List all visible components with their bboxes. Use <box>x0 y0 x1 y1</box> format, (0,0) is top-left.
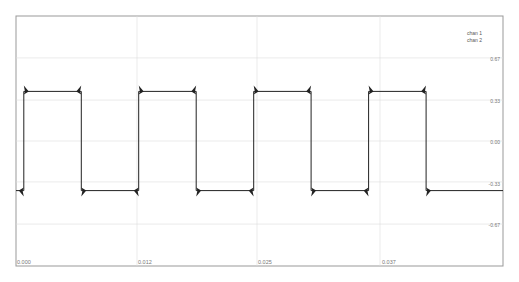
y-tick-0.33: 0.33 <box>478 98 500 104</box>
y-tick-0.67: 0.67 <box>478 56 500 62</box>
x-tick-0.025: 0.025 <box>258 259 272 265</box>
y-tick-0.00: 0.00 <box>478 139 500 145</box>
plot-area <box>0 0 519 282</box>
x-tick-0.037: 0.037 <box>382 259 396 265</box>
y-tick-neg0.33: -0.33 <box>478 181 500 187</box>
legend-item-chan1: chan 1 <box>467 30 482 37</box>
x-tick-0.012: 0.012 <box>138 259 152 265</box>
legend: chan 1 chan 2 <box>467 30 482 44</box>
y-tick-neg0.67: -0.67 <box>478 222 500 228</box>
legend-item-chan2: chan 2 <box>467 37 482 44</box>
x-tick-0.000: 0.000 <box>17 259 31 265</box>
